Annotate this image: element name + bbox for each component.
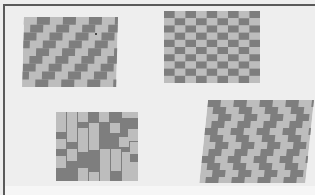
frame-left-edge: [3, 4, 5, 195]
speck: [95, 33, 97, 35]
frame-bottom-edge: [5, 186, 315, 195]
panel-random-blocks: [56, 112, 138, 181]
random-blocks-pattern: [56, 112, 138, 181]
frame-top-edge: [3, 4, 315, 6]
herringbone-pattern: [199, 100, 314, 183]
panel-herringbone: [199, 100, 314, 183]
panel-checkerboard: [164, 11, 260, 83]
panel-diagonal-stripes: [22, 17, 118, 87]
checkerboard-pattern: [164, 11, 260, 83]
diagonal-stripes-pattern: [22, 17, 118, 87]
